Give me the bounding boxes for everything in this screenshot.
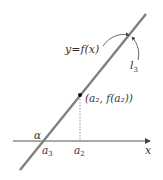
svg-text:l3: l3 (130, 59, 138, 74)
line-label-sub: 3 (134, 66, 138, 74)
curve-label: y=f(x) (64, 43, 99, 56)
diagram-canvas: y=f(x) l3 (a₂, f(a₂)) α a3 a2 x (0, 0, 163, 180)
svg-text:α: α (34, 129, 41, 141)
foot-sub: 2 (80, 150, 84, 158)
axis-label: x (145, 144, 152, 157)
svg-text:(a₂, f(a₂)): (a₂, f(a₂)) (85, 92, 133, 104)
pointer-line-label (132, 37, 139, 60)
point-a2 (78, 93, 82, 97)
svg-text:a2: a2 (74, 144, 85, 158)
svg-text:a3: a3 (42, 144, 53, 158)
svg-text:x: x (145, 144, 152, 157)
angle-label: α (34, 129, 41, 141)
point-label: (a₂, f(a₂)) (85, 92, 133, 104)
svg-text:y=f(x): y=f(x) (64, 43, 99, 56)
x-intercept-sub: 3 (48, 150, 52, 158)
